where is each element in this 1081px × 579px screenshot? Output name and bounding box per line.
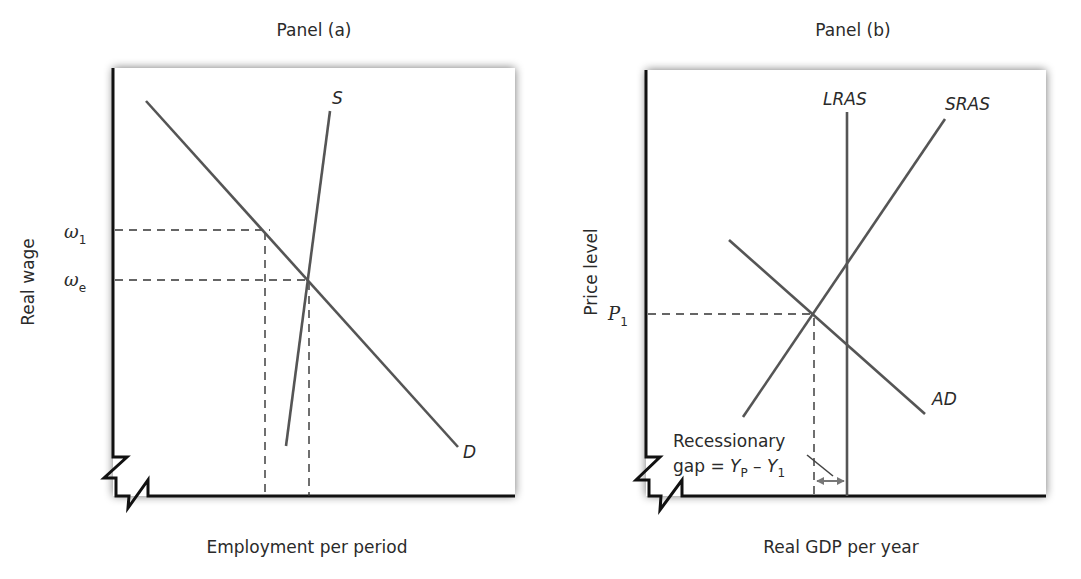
tick-p1: P1 xyxy=(607,303,628,329)
panel-b-y-axis-title: Price level xyxy=(581,228,601,315)
lras-label: LRAS xyxy=(823,89,867,109)
tick-w1: ω1 xyxy=(64,221,86,247)
panel-b-title: Panel (b) xyxy=(815,20,890,40)
panel-b-x-axis-title: Real GDP per year xyxy=(763,537,919,557)
supply-curve-label: S xyxy=(332,88,343,108)
panel-a-x-axis-title: Employment per period xyxy=(207,537,408,557)
panel-a: Panel (a) S D ω1 ωe Real wage Employment… xyxy=(18,20,515,557)
panel-a-title: Panel (a) xyxy=(277,20,352,40)
demand-curve-label: D xyxy=(463,442,476,462)
figure: Panel (a) S D ω1 ωe Real wage Employment… xyxy=(0,0,1081,579)
sras-label: SRAS xyxy=(945,94,990,114)
panel-a-y-axis-title: Real wage xyxy=(18,238,38,326)
tick-we: ωe xyxy=(64,269,86,295)
panel-b: Panel (b) LRAS SRAS AD P1 Recessionary g… xyxy=(581,20,1046,557)
gap-label-line1: Recessionary xyxy=(673,431,785,451)
ad-label: AD xyxy=(931,389,957,409)
